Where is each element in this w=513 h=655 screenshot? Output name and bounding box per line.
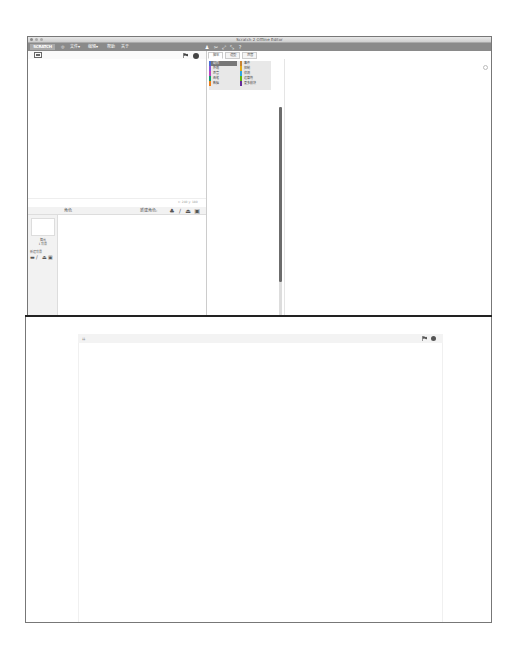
scratch-editor-window: Scratch 2 Offline Editor SCRATCH ◎ 文件▾ 编… [27, 36, 492, 316]
duplicate-icon[interactable]: ♟ [204, 44, 210, 50]
stage-selector[interactable]: 舞台 1 背景 新建背景 ▬ / ⏏ ▣ [28, 215, 58, 316]
new-sprite-label: 新建角色: [140, 208, 157, 214]
paint-backdrop-icon[interactable]: / [36, 255, 41, 260]
shrink-icon[interactable]: ⤡ [229, 44, 235, 50]
delete-icon[interactable]: ✂ [213, 44, 219, 50]
menu-about[interactable]: 关于 [121, 44, 129, 50]
camera-backdrop-icon[interactable]: ▣ [48, 255, 53, 260]
stage-thumbnail[interactable] [31, 218, 55, 236]
presentation-header: ⌗ [78, 334, 443, 343]
camera-sprite-icon[interactable]: ▣ [194, 208, 200, 214]
upload-backdrop-icon[interactable]: ⏏ [42, 255, 47, 260]
green-flag-icon[interactable] [183, 53, 188, 58]
tab-costumes[interactable]: 造型 [225, 52, 240, 59]
stage-header [28, 51, 206, 59]
block-categories: 动作 外观 声音 画笔 数据 事件 控制 侦测 运算符 更多模块 [209, 61, 271, 90]
choose-backdrop-icon[interactable]: ▬ [30, 255, 35, 260]
category-more-blocks[interactable]: 更多模块 [240, 81, 268, 86]
help-icon[interactable]: ? [237, 44, 243, 50]
green-flag-icon[interactable] [422, 336, 427, 341]
presentation-mode-icon[interactable] [34, 52, 42, 58]
tab-scripts[interactable]: 脚本 [208, 52, 223, 59]
choose-sprite-from-library-icon[interactable]: ♣ [169, 208, 175, 214]
menu-edit[interactable]: 编辑▾ [88, 44, 98, 50]
paint-new-sprite-icon[interactable]: / [177, 208, 183, 214]
presentation-stage[interactable] [78, 343, 443, 622]
sprite-list[interactable] [59, 215, 206, 316]
menu-bar: SCRATCH ◎ 文件▾ 编辑▾ 帮助 关于 ♟ ✂ ⤢ ⤡ ? [28, 43, 491, 51]
mouse-coordinates: x: 240 y: 180 [178, 200, 198, 204]
category-data[interactable]: 数据 [209, 81, 237, 86]
pane-divider [206, 51, 207, 316]
globe-language-icon[interactable]: ◎ [61, 44, 65, 50]
scripts-area[interactable] [284, 59, 489, 316]
menu-file[interactable]: 文件▾ [70, 44, 80, 50]
tab-sounds[interactable]: 声音 [242, 52, 257, 59]
palette-scrollbar[interactable] [279, 107, 282, 282]
stage-canvas[interactable] [28, 59, 206, 199]
sprites-title: 角色 [64, 208, 72, 214]
stop-icon[interactable] [431, 336, 436, 341]
palette-scroll-track [279, 282, 282, 316]
block-palette[interactable] [209, 90, 282, 316]
stage-label: 舞台 1 背景 [28, 238, 58, 246]
presentation-pane: ⌗ [25, 317, 492, 623]
zoom-control-icon[interactable] [483, 65, 488, 70]
upload-sprite-icon[interactable]: ⏏ [185, 208, 191, 214]
menu-help[interactable]: 帮助 [107, 44, 115, 50]
sprites-header: 角色 新建角色: ♣ / ⏏ ▣ [28, 207, 206, 215]
scratch-logo[interactable]: SCRATCH [30, 44, 55, 50]
grow-icon[interactable]: ⤢ [221, 44, 227, 50]
exit-presentation-icon[interactable]: ⌗ [82, 336, 88, 341]
